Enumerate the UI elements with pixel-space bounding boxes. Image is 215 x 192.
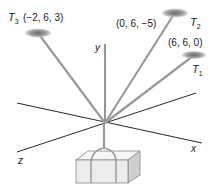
anchor-label-t1: T1 (192, 63, 203, 77)
anchor-disk-t2 (162, 9, 188, 18)
axes (17, 44, 202, 152)
x-axis-label: x (190, 143, 197, 154)
anchor-disk-t1 (182, 51, 206, 59)
anchor-coords-t1: (6, 6, 0) (168, 37, 202, 48)
suspended-box (76, 148, 140, 183)
force-diagram: y x z T3 (−2, 6, 3) (0, 6, −5) T2 (6, 6,… (0, 0, 215, 192)
anchor-label-t2: T2 (190, 16, 201, 30)
ropes (38, 14, 193, 148)
rope-t2 (105, 14, 174, 123)
z-axis-label: z (17, 155, 23, 166)
x-axis (17, 103, 202, 143)
anchor-coords-t2: (0, 6, −5) (116, 18, 156, 29)
anchor-coords-t3: (−2, 6, 3) (23, 12, 63, 23)
anchor-label-t3: T3 (8, 11, 19, 25)
y-axis-label: y (94, 42, 101, 53)
box-front-face (76, 160, 128, 183)
anchor-disk-t3 (25, 29, 51, 38)
rope-t1 (105, 56, 193, 123)
